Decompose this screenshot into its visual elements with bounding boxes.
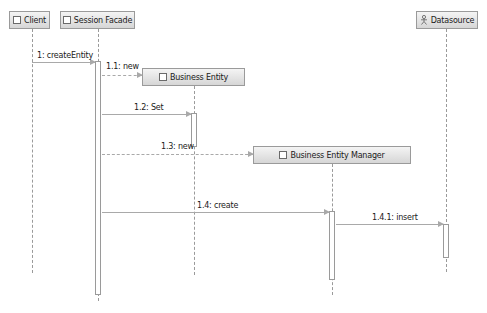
- arrowhead-icon: [137, 72, 143, 78]
- object-business-entity-manager[interactable]: Business Entity Manager: [253, 146, 411, 164]
- message-new-business-entity-manager[interactable]: [102, 154, 253, 155]
- class-icon: [159, 73, 167, 81]
- object-label: Datasource: [431, 16, 475, 25]
- message-label: 1.1: new: [106, 62, 139, 71]
- message-label: 1.2: Set: [134, 103, 164, 112]
- message-new-business-entity[interactable]: [102, 75, 142, 76]
- activation-datasource: [443, 224, 449, 258]
- object-datasource[interactable]: Datasource: [416, 11, 478, 29]
- object-label: Client: [24, 16, 46, 25]
- message-insert[interactable]: [336, 224, 443, 225]
- lifeline-client: [32, 29, 33, 273]
- message-label: 1.3: new: [161, 142, 194, 151]
- message-label: 1.4: create: [197, 201, 238, 210]
- object-session-facade[interactable]: Session Facade: [60, 11, 135, 29]
- class-icon: [63, 16, 71, 24]
- actor-icon: [420, 15, 428, 25]
- object-label: Business Entity Manager: [290, 151, 384, 160]
- arrowhead-icon: [438, 221, 444, 227]
- object-label: Session Facade: [74, 16, 132, 25]
- arrowhead-icon: [186, 111, 192, 117]
- arrowhead-icon: [248, 151, 254, 157]
- activation-session-facade: [95, 61, 101, 295]
- object-label: Business Entity: [170, 73, 228, 82]
- class-icon: [13, 16, 21, 24]
- class-icon: [279, 151, 287, 159]
- message-set[interactable]: [102, 114, 191, 115]
- message-create-entity[interactable]: [32, 62, 95, 63]
- object-business-entity[interactable]: Business Entity: [142, 68, 245, 86]
- object-client[interactable]: Client: [9, 11, 50, 29]
- message-label: 1.4.1: insert: [372, 213, 418, 222]
- activation-business-entity-manager: [329, 211, 335, 280]
- message-create[interactable]: [102, 212, 329, 213]
- message-label: 1: createEntity: [37, 51, 93, 60]
- arrowhead-icon: [324, 209, 330, 215]
